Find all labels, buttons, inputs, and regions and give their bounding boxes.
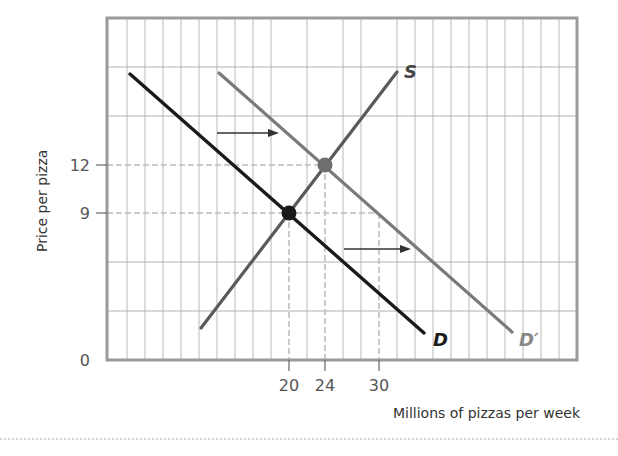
x-tick-30: 30 bbox=[369, 376, 389, 395]
demand-shifted-curve-label: D′ bbox=[519, 329, 539, 350]
y-tick-12: 12 bbox=[70, 156, 90, 175]
supply-curve-label: S bbox=[404, 61, 417, 82]
equilibrium-point-initial bbox=[282, 206, 297, 221]
x-tick-20: 20 bbox=[279, 376, 299, 395]
x-tick-24: 24 bbox=[315, 376, 335, 395]
equilibrium-point-new bbox=[318, 158, 333, 173]
footer-divider bbox=[0, 438, 618, 440]
y-axis-title: Price per pizza bbox=[34, 150, 50, 252]
plot-area bbox=[107, 18, 577, 360]
x-axis-title: Millions of pizzas per week bbox=[393, 405, 581, 421]
supply-demand-chart: S D D′ 12 9 0 20 24 30 Price per pizza M… bbox=[0, 0, 618, 456]
y-tick-9: 9 bbox=[80, 204, 90, 223]
y-tick-0: 0 bbox=[80, 351, 90, 370]
demand-curve-label: D bbox=[433, 329, 448, 350]
